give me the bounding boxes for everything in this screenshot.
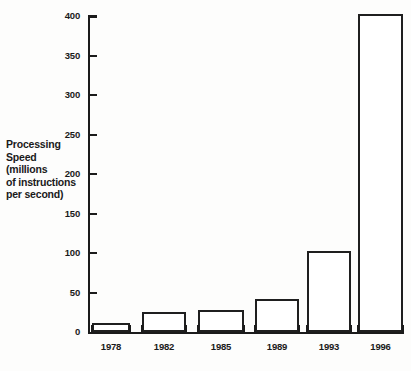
bar-1989 bbox=[255, 299, 299, 332]
y-tick-200 bbox=[88, 173, 97, 175]
x-tick-1982-start bbox=[141, 325, 143, 334]
x-tick-label-1996: 1996 bbox=[359, 341, 403, 352]
y-tick-50 bbox=[88, 292, 97, 294]
y-axis-line bbox=[88, 16, 90, 334]
x-tick-1978-end bbox=[129, 325, 131, 334]
y-axis-label-line-5: per second) bbox=[6, 188, 84, 201]
bar-1978 bbox=[92, 323, 130, 332]
x-tick-label-1978: 1978 bbox=[89, 341, 133, 352]
x-tick-1982-end bbox=[185, 325, 187, 334]
y-axis-label-line-2: Speed bbox=[6, 151, 84, 164]
bar-1996 bbox=[358, 14, 403, 332]
y-tick-label-400: 400 bbox=[46, 10, 80, 21]
y-tick-250 bbox=[88, 134, 97, 136]
y-tick-label-0: 0 bbox=[46, 326, 80, 337]
x-tick-1993-end bbox=[350, 325, 352, 334]
x-tick-1996-start bbox=[357, 325, 359, 334]
x-tick-1985-start bbox=[197, 325, 199, 334]
y-tick-label-350: 350 bbox=[46, 50, 80, 61]
y-tick-300 bbox=[88, 94, 97, 96]
x-tick-1978-start bbox=[91, 325, 93, 334]
x-tick-1996-end bbox=[402, 325, 404, 334]
y-tick-label-300: 300 bbox=[46, 89, 80, 100]
y-tick-label-50: 50 bbox=[46, 287, 80, 298]
x-tick-1989-end bbox=[298, 325, 300, 334]
x-tick-1989-start bbox=[254, 325, 256, 334]
x-tick-1993-start bbox=[306, 325, 308, 334]
y-tick-label-100: 100 bbox=[46, 247, 80, 258]
y-tick-350 bbox=[88, 55, 97, 57]
x-tick-1985-end bbox=[243, 325, 245, 334]
y-tick-100 bbox=[88, 252, 97, 254]
y-tick-150 bbox=[88, 213, 97, 215]
bar-1993 bbox=[307, 251, 351, 332]
x-tick-label-1989: 1989 bbox=[255, 341, 299, 352]
bar-1982 bbox=[142, 312, 186, 332]
y-tick-label-200: 200 bbox=[46, 168, 80, 179]
y-axis-label-line-1: Processing bbox=[6, 138, 84, 151]
y-tick-label-150: 150 bbox=[46, 208, 80, 219]
bar-chart-figure: Processing Speed (millions of instructio… bbox=[0, 0, 411, 371]
bar-1985 bbox=[198, 310, 244, 332]
y-tick-label-250: 250 bbox=[46, 129, 80, 140]
x-tick-label-1985: 1985 bbox=[199, 341, 243, 352]
x-tick-label-1982: 1982 bbox=[142, 341, 186, 352]
y-tick-400 bbox=[88, 15, 97, 17]
x-axis-line bbox=[88, 332, 403, 334]
x-tick-label-1993: 1993 bbox=[307, 341, 351, 352]
